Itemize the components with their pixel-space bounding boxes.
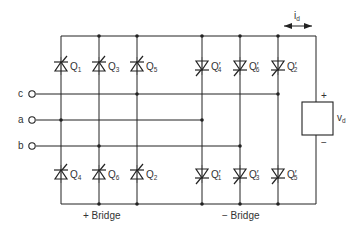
load-box (302, 102, 333, 135)
svg-text:Q4: Q4 (70, 169, 82, 181)
svg-text:Q′4: Q′4 (211, 61, 222, 73)
svg-text:Q6: Q6 (108, 169, 120, 181)
svg-text:Q′6: Q′6 (249, 61, 260, 73)
svg-text:Q2: Q2 (146, 169, 158, 181)
load-plus-sign: + (321, 90, 327, 101)
dual-converter-diagram: c a b Q1 Q3 Q5 Q4 (0, 0, 359, 230)
load-minus-sign: − (321, 137, 327, 148)
terminal-b (29, 143, 35, 149)
thyristor-q3: Q3 (92, 56, 120, 75)
thyristor-q2-prime: Q′2 (271, 57, 298, 76)
terminal-label-b: b (18, 140, 24, 151)
current-label: id (294, 10, 300, 22)
thyristor-q4-prime: Q′4 (195, 57, 222, 76)
svg-text:Q′1: Q′1 (211, 169, 222, 181)
thyristor-q6: Q6 (92, 164, 120, 183)
thyristor-q2: Q2 (130, 164, 158, 183)
thyristor-q4: Q4 (54, 164, 82, 183)
thyristor-q5-prime: Q′5 (271, 165, 298, 184)
svg-text:Q1: Q1 (70, 61, 82, 73)
svg-text:Q′5: Q′5 (287, 169, 298, 181)
terminal-a (29, 117, 35, 123)
svg-text:Q3: Q3 (108, 61, 120, 73)
terminal-label-a: a (18, 114, 24, 125)
load-voltage-label: vd (337, 112, 346, 124)
positive-bridge-caption: + Bridge (83, 210, 121, 221)
thyristor-q6-prime: Q′6 (233, 57, 260, 76)
negative-bridge-caption: − Bridge (222, 210, 260, 221)
thyristor-q3-prime: Q′3 (233, 165, 260, 184)
thyristor-q1-prime: Q′1 (195, 165, 222, 184)
svg-text:Q′2: Q′2 (287, 61, 298, 73)
thyristor-q1: Q1 (54, 56, 82, 75)
svg-text:Q′3: Q′3 (249, 169, 260, 181)
svg-text:Q5: Q5 (146, 61, 158, 73)
thyristor-q5: Q5 (130, 56, 158, 75)
terminal-c (29, 91, 35, 97)
terminal-label-c: c (18, 88, 23, 99)
